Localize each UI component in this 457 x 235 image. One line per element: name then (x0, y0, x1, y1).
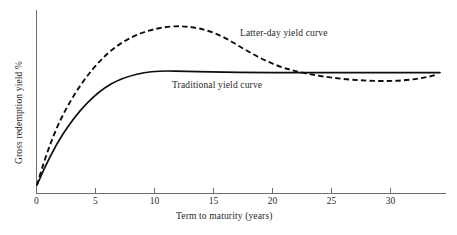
x-tick-label-20: 20 (258, 196, 288, 206)
annotation-traditional-yield-curve: Traditional yield curve (172, 80, 262, 90)
series-latter-day-yield-curve (37, 26, 437, 185)
x-tick-label-5: 5 (81, 196, 111, 206)
x-tick-label-0: 0 (22, 196, 52, 206)
x-tick-label-25: 25 (317, 196, 347, 206)
x-tick-label-10: 10 (140, 196, 170, 206)
y-axis-title: Gross redemption yield % (14, 61, 24, 164)
x-tick-label-15: 15 (199, 196, 229, 206)
x-axis-title: Term to maturity (years) (176, 211, 273, 221)
x-tick-label-30: 30 (376, 196, 406, 206)
yield-curve-chart: 0 5 10 15 20 25 30 Term to maturity (yea… (0, 0, 457, 235)
annotation-latter-day-yield-curve: Latter-day yield curve (240, 28, 328, 38)
